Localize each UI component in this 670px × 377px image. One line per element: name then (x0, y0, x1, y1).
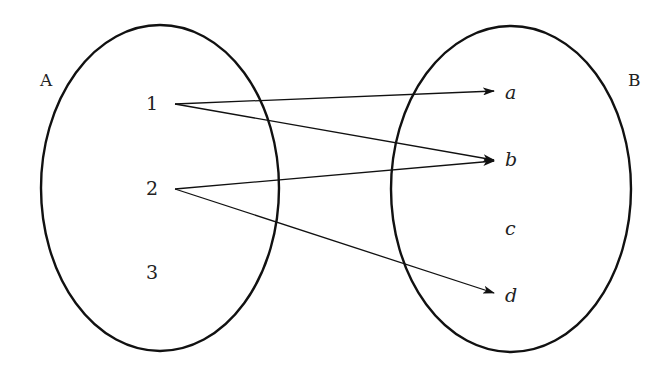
mapping-diagram: A 1 2 3 B a b c d (0, 0, 670, 377)
element-3: 3 (146, 261, 158, 283)
set-b-label: B (628, 70, 641, 90)
set-a-ellipse (41, 25, 279, 351)
arrow-1-to-a (175, 91, 494, 104)
element-a: a (505, 81, 516, 103)
element-2: 2 (146, 177, 158, 199)
element-d: d (505, 284, 517, 306)
element-1: 1 (146, 92, 158, 114)
arrow-1-to-b (175, 104, 494, 160)
element-c: c (505, 217, 516, 239)
set-a-label: A (39, 70, 53, 90)
element-b: b (505, 148, 517, 170)
arrow-2-to-d (175, 189, 494, 293)
arrow-2-to-b (175, 161, 494, 189)
